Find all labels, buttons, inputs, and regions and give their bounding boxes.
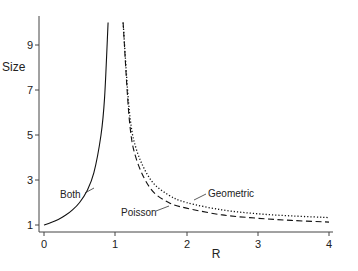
x-tick-label: 3 [255, 238, 261, 250]
y-tick-label: 1 [27, 219, 33, 231]
annotation-poisson-leader [156, 206, 169, 211]
x-axis-title: R [212, 247, 221, 261]
x-ticks: 0 1 2 3 4 [41, 232, 332, 250]
x-tick-label: 4 [326, 238, 332, 250]
x-tick-label: 2 [184, 238, 190, 250]
y-tick-label: 5 [27, 129, 33, 141]
annotation-geometric: Geometric [208, 188, 254, 199]
x-tick-label: 1 [112, 238, 118, 250]
y-tick-label: 9 [27, 39, 33, 51]
y-ticks: 1 3 5 7 9 [27, 39, 39, 231]
annotation-both-leader [85, 188, 94, 193]
y-tick-label: 7 [27, 84, 33, 96]
y-tick-label: 3 [27, 174, 33, 186]
annotation-geometric-leader [194, 194, 206, 200]
x-tick-label: 0 [41, 238, 47, 250]
annotation-both: Both [60, 189, 81, 200]
annotation-poisson: Poisson [121, 207, 157, 218]
y-axis-title: Size [2, 60, 26, 74]
chart-canvas: 1 3 5 7 9 0 1 2 3 4 Size R Both Geometri… [0, 0, 358, 271]
